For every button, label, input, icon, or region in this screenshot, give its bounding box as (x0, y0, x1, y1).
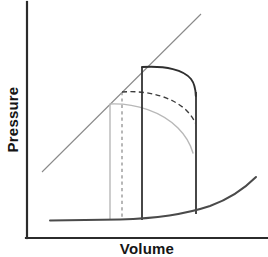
liquid-line-baseline (50, 177, 256, 221)
isotherm-mid-dashed-curve (122, 92, 195, 123)
isotherm-high-dark-group (142, 67, 196, 220)
isotherm-high-dark-curve (142, 67, 196, 96)
isotherm-mid-dashed-group (122, 92, 195, 218)
y-axis-label: Pressure (4, 80, 21, 160)
x-axis-label: Volume (26, 240, 268, 257)
axis-group (26, 2, 268, 238)
liquid-baseline-group (50, 177, 256, 221)
